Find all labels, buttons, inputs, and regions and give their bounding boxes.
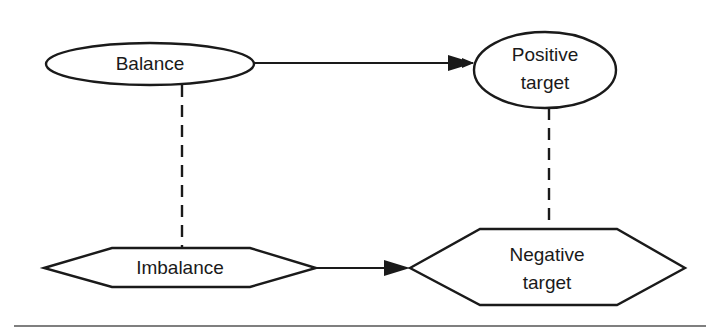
positive-target-label-line1: Positive	[485, 42, 605, 68]
imbalance-label: Imbalance	[120, 255, 240, 281]
balance-label: Balance	[90, 51, 210, 77]
positive-target-label-line2: target	[485, 70, 605, 96]
negative-target-label-line1: Negative	[487, 242, 607, 268]
negative-target-label-line2: target	[487, 270, 607, 296]
arrowhead-positive	[448, 55, 474, 71]
diagram-canvas	[0, 0, 725, 331]
arrowhead-negative	[384, 260, 410, 276]
